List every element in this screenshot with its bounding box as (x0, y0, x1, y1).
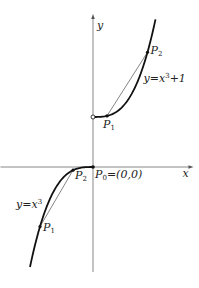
y-axis-arrow-icon (91, 14, 95, 19)
upper-cubic-curve (93, 19, 156, 117)
upper-p1-label: P1 (102, 118, 115, 132)
x-axis-arrow-icon (189, 165, 194, 169)
upper-p2-label: P2 (150, 44, 163, 58)
x-axis-label: x (183, 167, 190, 180)
upper-secant-line (107, 52, 148, 116)
cubic-secant-diagram: x y P1 P2 y=x3+1 P1 P2 y=x3 P0=(0,0) (0, 0, 199, 288)
lower-equation-label: y=x3 (15, 198, 42, 211)
lower-p2-label: P2 (74, 169, 87, 183)
upper-point-p2 (146, 51, 149, 54)
upper-equation-label: y=x3+1 (143, 72, 186, 85)
lower-p1-label: P1 (42, 221, 55, 235)
origin-label: P0=(0,0) (94, 168, 142, 182)
lower-secant-line (40, 170, 73, 226)
y-axis-label: y (96, 19, 104, 32)
open-endpoint-marker (91, 115, 95, 119)
lower-point-p1 (38, 225, 41, 228)
